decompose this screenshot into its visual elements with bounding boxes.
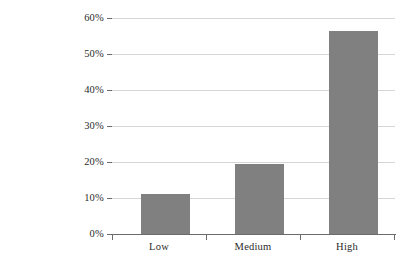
y-axis-tick-label: 50%: [18, 49, 104, 60]
x-axis-label-low: Low: [112, 242, 206, 253]
y-axis-tick-label: 0%: [18, 229, 104, 240]
bar-high: [329, 31, 378, 234]
y-axis-tick-label: 30%: [18, 121, 104, 132]
x-axis-tick: [206, 235, 207, 240]
y-axis-tick-label: 60%: [18, 13, 104, 24]
x-axis-tick: [112, 235, 113, 240]
x-axis-tick: [394, 235, 395, 240]
bar-low: [141, 194, 190, 234]
gridline-60: [112, 18, 395, 19]
y-axis-tick-label: 40%: [18, 85, 104, 96]
x-axis-line: [112, 234, 396, 235]
x-axis-label-high: High: [300, 242, 394, 253]
plot-area: [112, 18, 395, 234]
bar-chart: 60% 50% 40% 30% 20% 10% 0% Low Medium Hi…: [0, 0, 416, 263]
y-axis-tick-label: 20%: [18, 157, 104, 168]
bar-medium: [235, 164, 284, 234]
x-axis-label-medium: Medium: [206, 242, 300, 253]
y-axis-labels: 60% 50% 40% 30% 20% 10% 0%: [0, 0, 104, 263]
y-axis-tick-label: 10%: [18, 193, 104, 204]
x-axis-tick: [300, 235, 301, 240]
